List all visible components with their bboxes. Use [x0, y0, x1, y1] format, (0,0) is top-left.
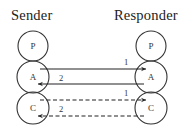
sender-node-label: A — [30, 72, 37, 82]
message-label: 1 — [124, 88, 128, 98]
message-label: 2 — [59, 104, 63, 114]
responder-column: PAC — [135, 31, 167, 124]
message-label: 1 — [124, 57, 128, 67]
responder-node-p: P — [136, 31, 166, 61]
message-2-solid-left: 2 — [38, 73, 144, 84]
message-2-dashed-left: 2 — [38, 104, 144, 116]
sender-node-p: P — [18, 31, 48, 61]
responder-node-label: A — [148, 72, 155, 82]
message-1-dashed-right: 1 — [40, 88, 146, 100]
sender-node-a: A — [17, 61, 49, 93]
message-flow-diagram: PAC PAC 1212 — [0, 0, 192, 132]
responder-node-a: A — [135, 61, 167, 93]
responder-node-label: C — [148, 103, 154, 113]
sender-node-label: C — [30, 103, 36, 113]
message-label: 2 — [59, 73, 63, 83]
responder-node-label: P — [148, 41, 153, 51]
responder-node-c: C — [135, 92, 167, 124]
message-1-solid-right: 1 — [40, 57, 146, 69]
sender-node-label: P — [30, 41, 35, 51]
sender-node-c: C — [17, 92, 49, 124]
messages-group: 1212 — [38, 57, 146, 116]
sender-column: PAC — [17, 31, 49, 124]
